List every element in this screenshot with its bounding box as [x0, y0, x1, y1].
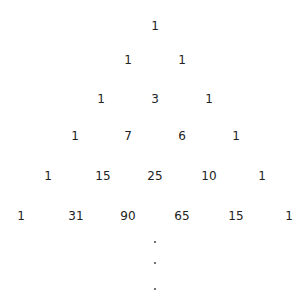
- triangle-entry: 1: [178, 54, 186, 66]
- ellipsis-dot: [154, 288, 156, 290]
- triangle-entry: 1: [151, 20, 159, 32]
- triangle-entry: 6: [178, 130, 186, 142]
- triangle-entry: 1: [97, 93, 105, 105]
- triangle-entry: 65: [174, 210, 189, 222]
- ellipsis-dot: [154, 241, 156, 243]
- triangle-entry: 7: [124, 130, 132, 142]
- triangle-entry: 1: [232, 130, 240, 142]
- triangle-entry: 1: [285, 210, 293, 222]
- triangle-entry: 1: [44, 170, 52, 182]
- triangle-entry: 1: [205, 93, 213, 105]
- ellipsis-dot: [154, 262, 156, 264]
- triangle-entry: 1: [71, 130, 79, 142]
- triangle-entry: 90: [120, 210, 135, 222]
- triangle-entry: 15: [228, 210, 243, 222]
- triangle-entry: 15: [95, 170, 110, 182]
- triangle-entry: 31: [68, 210, 83, 222]
- triangle-entry: 3: [151, 93, 159, 105]
- triangle-entry: 1: [17, 210, 25, 222]
- triangle-entry: 1: [124, 54, 132, 66]
- triangle-entry: 10: [201, 170, 216, 182]
- triangle-entry: 25: [147, 170, 162, 182]
- triangle-entry: 1: [258, 170, 266, 182]
